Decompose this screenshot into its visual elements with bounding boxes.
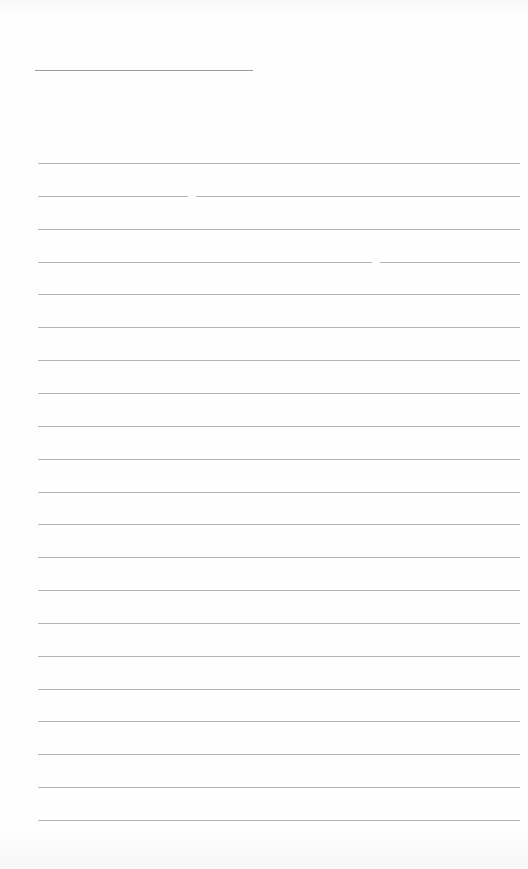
ruled-line: [38, 623, 520, 624]
ruled-line: [38, 459, 520, 460]
ruled-line: [38, 787, 520, 788]
ruled-line-segment: [38, 196, 188, 197]
ruled-line: [38, 754, 520, 755]
ruled-lines: [0, 0, 528, 869]
ruled-line: [38, 524, 520, 525]
ruled-line: [38, 557, 520, 558]
ruled-line-segment: [196, 196, 520, 197]
ruled-line: [38, 590, 520, 591]
ruled-line: [38, 689, 520, 690]
ruled-line-segment: [380, 262, 520, 263]
ruled-line: [38, 393, 520, 394]
ruled-line: [38, 262, 520, 263]
ruled-line: [38, 163, 520, 164]
ruled-line: [38, 196, 520, 197]
ruled-line: [38, 294, 520, 295]
ruled-paper-page: [0, 0, 528, 869]
ruled-line: [38, 327, 520, 328]
ruled-line: [38, 820, 520, 821]
scan-shadow: [0, 829, 528, 869]
ruled-line: [38, 360, 520, 361]
ruled-line: [38, 721, 520, 722]
ruled-line: [38, 656, 520, 657]
ruled-line: [38, 492, 520, 493]
ruled-line: [38, 426, 520, 427]
ruled-line: [38, 229, 520, 230]
ruled-line-segment: [38, 262, 372, 263]
